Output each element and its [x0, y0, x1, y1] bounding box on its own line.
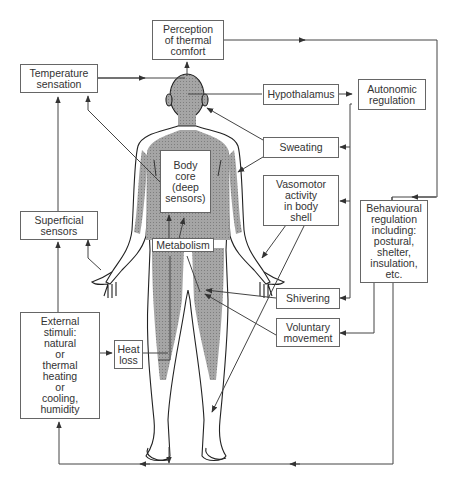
hypothalamus-box: Hypothalamus	[263, 84, 339, 105]
shivering-box: Shivering	[276, 288, 340, 309]
voluntary-movement-box: Voluntary movement	[276, 318, 340, 347]
human-body-figure	[92, 74, 284, 461]
autonomic-regulation-box: Autonomic regulation	[358, 79, 426, 110]
metabolism-box: Metabolism	[152, 238, 214, 252]
vasomotor-activity-box: Vasomotor activity in body shell	[263, 175, 339, 226]
temperature-sensation-box: Temperature sensation	[20, 64, 98, 93]
perception-of-thermal-comfort-box: Perception of thermal comfort	[152, 20, 224, 60]
sweating-box: Sweating	[263, 137, 339, 158]
external-stimuli-box: External stimuli: natural or thermal hea…	[20, 312, 100, 419]
autonomic-bus	[350, 104, 352, 298]
superficial-sensors-box: Superficial sensors	[20, 211, 98, 240]
heat-loss-box: Heat loss	[114, 340, 143, 369]
body-core-box: Body core (deep sensors)	[160, 150, 211, 213]
head	[170, 74, 204, 118]
behavioural-regulation-box: Behavioural regulation including: postur…	[360, 200, 428, 283]
